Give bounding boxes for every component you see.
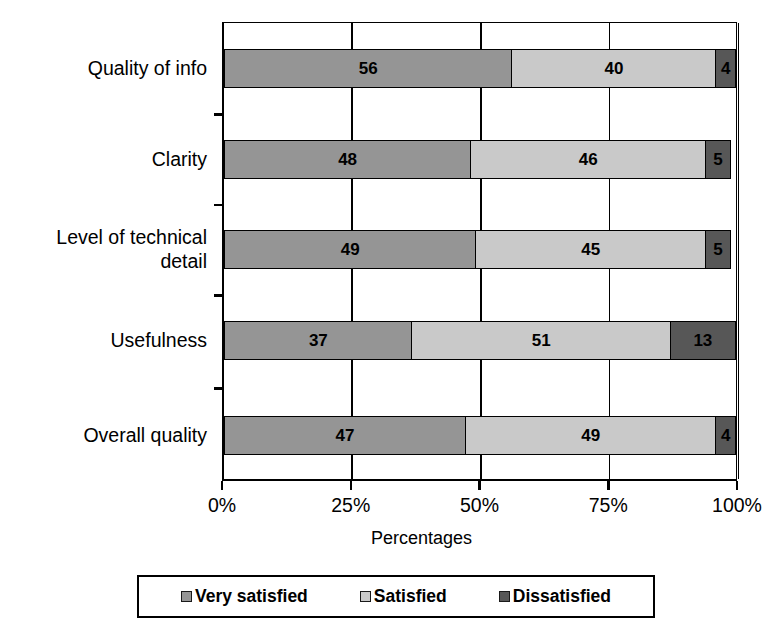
legend-swatch-icon (499, 591, 510, 602)
y-axis-tick (214, 387, 223, 390)
legend-swatch-icon (360, 591, 371, 602)
y-axis-tick (214, 204, 223, 207)
legend-label: Satisfied (374, 586, 447, 607)
bar-row: 49455 (224, 230, 736, 269)
bar-segment: 45 (475, 230, 707, 269)
x-axis-tick-50 (478, 481, 481, 490)
bar-value-label: 46 (579, 151, 598, 168)
x-axis-tick-100 (736, 481, 739, 490)
bar-value-label: 5 (713, 151, 722, 168)
category-label-3: Usefulness (111, 328, 207, 352)
x-axis-title: Percentages (0, 528, 783, 549)
bar-segment: 47 (224, 416, 466, 455)
bar-segment: 5 (705, 140, 731, 179)
bar-segment: 46 (470, 140, 707, 179)
bar-segment: 13 (670, 321, 736, 360)
x-axis-tick-75 (607, 481, 610, 490)
x-axis-tick-label-0: 0% (208, 494, 236, 517)
y-axis-tick (214, 113, 223, 116)
x-axis-tick-0 (221, 481, 224, 490)
bar-segment: 40 (511, 49, 717, 88)
bar-segment: 48 (224, 140, 471, 179)
bar-value-label: 45 (581, 241, 600, 258)
bar-segment: 4 (715, 49, 736, 88)
bar-value-label: 49 (581, 427, 600, 444)
stacked-bar-chart: 56404484654945537511347494 Quality of in… (0, 0, 783, 636)
bar-value-label: 4 (721, 427, 730, 444)
legend-item[interactable]: Very satisfied (181, 586, 308, 607)
category-label-0: Quality of info (88, 56, 207, 80)
x-axis-tick-label-100: 100% (712, 494, 762, 517)
legend-label: Dissatisfied (513, 586, 611, 607)
bar-value-label: 49 (341, 241, 360, 258)
x-axis-tick-label-50: 50% (460, 494, 499, 517)
bar-segment: 49 (224, 230, 476, 269)
legend-item[interactable]: Satisfied (360, 586, 447, 607)
legend-swatch-icon (181, 591, 192, 602)
bar-value-label: 51 (532, 332, 551, 349)
legend-item[interactable]: Dissatisfied (499, 586, 611, 607)
bar-value-label: 4 (721, 60, 730, 77)
bar-row: 48465 (224, 140, 736, 179)
bar-value-label: 5 (713, 241, 722, 258)
gridline-100 (738, 23, 740, 479)
bar-segment: 51 (411, 321, 671, 360)
x-axis-tick-label-25: 25% (331, 494, 370, 517)
legend: Very satisfiedSatisfiedDissatisfied (137, 575, 655, 618)
category-label-4: Overall quality (83, 423, 207, 447)
bar-value-label: 13 (693, 332, 712, 349)
plot-area: 56404484654945537511347494 (222, 22, 737, 481)
bar-row: 47494 (224, 416, 736, 455)
legend-label: Very satisfied (195, 586, 308, 607)
bar-value-label: 56 (359, 60, 378, 77)
y-axis-tick (214, 294, 223, 297)
bar-segment: 5 (705, 230, 731, 269)
bar-value-label: 40 (604, 60, 623, 77)
bar-segment: 4 (715, 416, 736, 455)
bar-segment: 56 (224, 49, 512, 88)
x-axis-tick-25 (350, 481, 353, 490)
category-label-2: Level of technical detail (56, 225, 207, 273)
x-axis-tick-label-75: 75% (589, 494, 628, 517)
bar-row: 56404 (224, 49, 736, 88)
bar-value-label: 48 (338, 151, 357, 168)
bar-segment: 49 (465, 416, 717, 455)
bar-value-label: 37 (309, 332, 328, 349)
bar-row: 375113 (224, 321, 736, 360)
bar-segment: 37 (224, 321, 413, 360)
bar-value-label: 47 (336, 427, 355, 444)
x-axis-title-text: Percentages (371, 528, 472, 549)
category-label-1: Clarity (152, 147, 207, 171)
